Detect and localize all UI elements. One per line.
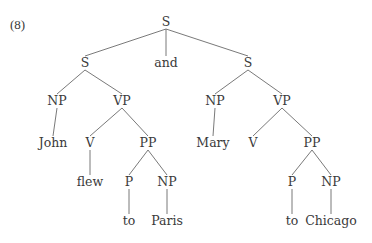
tree-node-np-r: NP: [205, 95, 224, 108]
tree-edge: [90, 108, 122, 136]
tree-edge: [292, 150, 312, 175]
tree-edge: [312, 150, 331, 175]
tree-node-np2-l: NP: [157, 176, 176, 189]
tree-edge: [166, 29, 248, 56]
tree-node-pp-r: PP: [304, 137, 321, 150]
tree-edge: [282, 108, 312, 136]
tree-node-mary: Mary: [196, 137, 229, 150]
tree-node-flew: flew: [77, 176, 103, 189]
tree-edge: [129, 150, 148, 175]
tree-node-paris: Paris: [151, 215, 183, 228]
tree-edge: [85, 29, 166, 56]
tree-node-s-right: S: [244, 57, 253, 70]
tree-edge: [248, 70, 282, 94]
tree-node-to-l: to: [123, 215, 136, 228]
tree-node-s-root: S: [162, 16, 171, 29]
tree-node-pp-l: PP: [140, 137, 157, 150]
tree-edge: [122, 108, 148, 136]
tree-node-vp-l: VP: [113, 95, 130, 108]
tree-edge: [57, 70, 85, 94]
tree-edge: [148, 150, 167, 175]
tree-edge: [85, 70, 122, 94]
tree-node-and: and: [154, 57, 178, 70]
tree-node-to-r: to: [286, 215, 299, 228]
tree-node-v-l: V: [85, 137, 94, 150]
tree-node-chicago: Chicago: [305, 215, 357, 228]
tree-edge: [253, 108, 282, 136]
syntax-tree: (8) SSandSNPVPNPVPJohnVPPMaryVPPflewPNPP…: [0, 0, 372, 243]
tree-node-john: John: [39, 137, 68, 150]
tree-node-np-l: NP: [47, 95, 66, 108]
tree-edge: [215, 70, 248, 94]
tree-node-p-r: P: [288, 176, 296, 189]
tree-node-np2-r: NP: [321, 176, 340, 189]
tree-node-s-left: S: [81, 57, 90, 70]
tree-node-p-l: P: [125, 176, 133, 189]
tree-node-vp-r: VP: [273, 95, 290, 108]
tree-edges: [0, 0, 372, 243]
tree-edge: [213, 108, 215, 136]
tree-edge: [53, 108, 57, 136]
tree-node-v-r: V: [248, 137, 257, 150]
